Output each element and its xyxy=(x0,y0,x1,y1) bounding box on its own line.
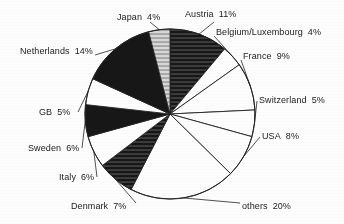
slice-label-gb: GB5% xyxy=(39,107,70,118)
slice-label-switzerland: Switzerland5% xyxy=(259,95,325,106)
slice-label-others-pct: 20% xyxy=(273,201,291,211)
slice-label-belgium-pct: 4% xyxy=(308,27,321,37)
slice-label-sweden-pct: 6% xyxy=(66,143,79,153)
slice-label-denmark-name: Denmark xyxy=(71,201,108,211)
slice-label-others-name: others xyxy=(242,201,268,211)
slice-label-italy-pct: 6% xyxy=(81,172,94,182)
pie-chart-figure: Japan4% Austria11% Belgium/Luxembourg4% … xyxy=(0,0,344,224)
slice-label-usa-name: USA xyxy=(262,131,281,141)
slice-label-gb-pct: 5% xyxy=(57,107,70,117)
leader-line-japan xyxy=(150,22,159,30)
slice-label-belgium: Belgium/Luxembourg4% xyxy=(216,27,321,38)
slice-label-austria: Austria11% xyxy=(185,9,236,20)
slice-label-switzerland-name: Switzerland xyxy=(259,95,307,105)
slice-label-others: others20% xyxy=(242,201,291,212)
slice-label-gb-name: GB xyxy=(39,107,52,117)
pie-slices-group xyxy=(85,29,255,199)
slice-label-italy-name: Italy xyxy=(59,172,76,182)
slice-label-austria-name: Austria xyxy=(185,9,214,19)
leader-line-others xyxy=(183,198,240,203)
slice-label-france-pct: 9% xyxy=(277,51,290,61)
slice-label-austria-pct: 11% xyxy=(219,9,237,19)
slice-label-usa-pct: 8% xyxy=(286,131,299,141)
slice-label-netherlands-pct: 14% xyxy=(75,46,93,56)
slice-label-japan-pct: 4% xyxy=(147,12,160,22)
slice-label-sweden: Sweden6% xyxy=(28,143,79,154)
slice-label-switzerland-pct: 5% xyxy=(312,95,325,105)
slice-label-japan-name: Japan xyxy=(117,12,142,22)
slice-label-france: France9% xyxy=(243,51,290,62)
leader-line-sweden xyxy=(82,121,85,148)
slice-label-japan: Japan4% xyxy=(117,12,160,23)
slice-label-belgium-name: Belgium/Luxembourg xyxy=(216,27,303,37)
slice-label-sweden-name: Sweden xyxy=(28,143,61,153)
slice-label-italy: Italy6% xyxy=(59,172,94,183)
slice-label-france-name: France xyxy=(243,51,272,61)
slice-label-netherlands: Netherlands14% xyxy=(20,46,93,57)
slice-label-denmark: Denmark7% xyxy=(71,201,126,212)
slice-label-netherlands-name: Netherlands xyxy=(20,46,70,56)
slice-label-usa: USA8% xyxy=(262,131,299,142)
slice-label-denmark-pct: 7% xyxy=(113,201,126,211)
leader-line-austria xyxy=(199,22,214,34)
